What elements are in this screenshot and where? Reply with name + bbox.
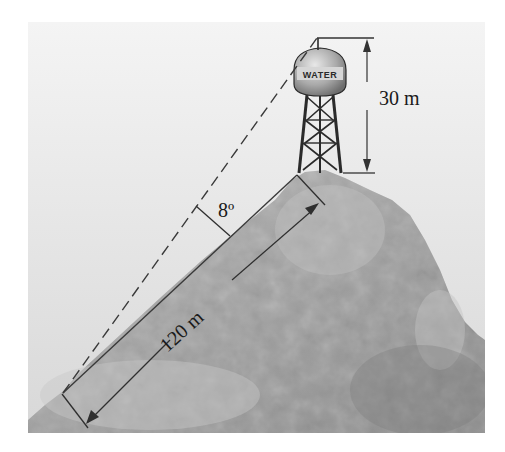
hill-highlight (40, 360, 260, 430)
diagram-canvas: WATER 30 m 8º 120 m (0, 0, 505, 452)
hill-highlight (275, 185, 385, 275)
height-label: 30 m (379, 87, 420, 109)
angle-label: 8º (218, 199, 234, 221)
hill-shadow (350, 345, 490, 435)
tower-label: WATER (303, 70, 337, 80)
